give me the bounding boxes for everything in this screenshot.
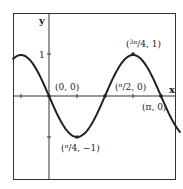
point-label-min: (π/4, −1) bbox=[61, 142, 100, 153]
y-tick-label-1: 1 bbox=[39, 50, 45, 60]
point-label-pi: (π, 0) bbox=[142, 102, 166, 112]
sine-graph: y x 1 (0, 0) (π/4, −1) (π/2, 0) (3π/4, 1… bbox=[0, 0, 183, 189]
point-label-max: (3π/4, 1) bbox=[126, 38, 161, 49]
point-label-half-pi: (π/2, 0) bbox=[115, 81, 146, 92]
x-axis-label: x bbox=[169, 84, 176, 95]
y-axis-label: y bbox=[38, 15, 46, 26]
point-label-origin: (0, 0) bbox=[55, 82, 79, 92]
